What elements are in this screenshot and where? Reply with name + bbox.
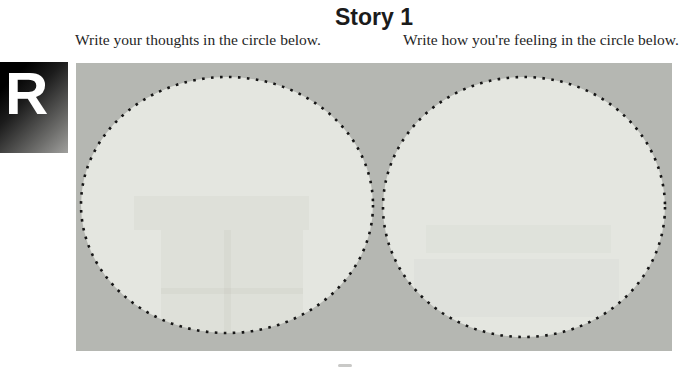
- instruction-feelings: Write how you're feeling in the circle b…: [403, 31, 679, 50]
- page-title: Story 1: [76, 5, 672, 30]
- right-circle-ghost-watermark: [414, 225, 619, 317]
- chapter-badge: R: [0, 62, 68, 153]
- instruction-thoughts: Write your thoughts in the circle below.: [75, 31, 321, 50]
- worksheet-panel: [76, 63, 672, 351]
- worksheet-page: Story 1 Write your thoughts in the circl…: [0, 0, 693, 372]
- badge-letter: R: [5, 64, 48, 124]
- page-number-mark: [338, 364, 352, 367]
